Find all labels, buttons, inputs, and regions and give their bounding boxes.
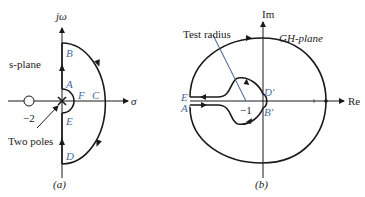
point-b-label: B — [66, 47, 73, 59]
zero-value-label: −2 — [23, 112, 35, 124]
two-poles-label: Two poles — [8, 135, 53, 147]
re-axis-label: Re — [348, 95, 360, 107]
point-a-label: A — [65, 78, 73, 90]
caption-a: (a) — [53, 178, 66, 191]
sigma-axis-label: σ — [131, 95, 137, 107]
im-axis-label: Im — [262, 8, 275, 20]
critical-point-label: −1 — [240, 104, 252, 116]
test-radius-label: Test radius — [183, 28, 231, 40]
s-plane-label: s-plane — [9, 58, 41, 70]
point-d-prime-label: D′ — [263, 86, 275, 98]
panel-a-s-plane: jω σ s-plane −2 Two poles B A F C E D (a… — [8, 10, 137, 191]
point-b-prime-label: B′ — [264, 106, 274, 118]
caption-b: (b) — [255, 178, 268, 191]
nyquist-diagram: jω σ s-plane −2 Two poles B A F C E D (a… — [0, 0, 365, 197]
panel-b-gh-plane: Im Re GH-plane Test radius −1 E′ A′ D′ B… — [180, 8, 360, 191]
point-e-label: E — [65, 115, 73, 127]
jw-axis-label: jω — [54, 10, 67, 22]
point-c-label: C — [92, 89, 100, 101]
gh-plane-label: GH-plane — [279, 32, 323, 44]
point-d-label: D — [65, 150, 74, 162]
point-f-label: F — [77, 89, 85, 101]
zero-marker — [24, 96, 34, 106]
point-a-prime-label: A′ — [180, 102, 191, 114]
